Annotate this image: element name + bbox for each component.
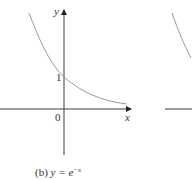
exp-decay-curve — [29, 13, 127, 104]
graph-c-partial — [165, 13, 192, 109]
curve-partial — [172, 13, 191, 58]
caption: (b) y = e−x — [35, 166, 82, 179]
caption-equation: y = e — [50, 166, 74, 178]
figure: y x 0 1 (b) y = e−x — [0, 0, 192, 180]
graph-b: y x 0 1 (b) y = e−x — [0, 5, 131, 179]
y-axis-label: y — [53, 5, 59, 17]
y-tick-label-1: 1 — [56, 71, 62, 83]
caption-exponent: −x — [73, 166, 82, 174]
origin-label: 0 — [55, 111, 61, 123]
x-axis-label: x — [124, 111, 130, 123]
